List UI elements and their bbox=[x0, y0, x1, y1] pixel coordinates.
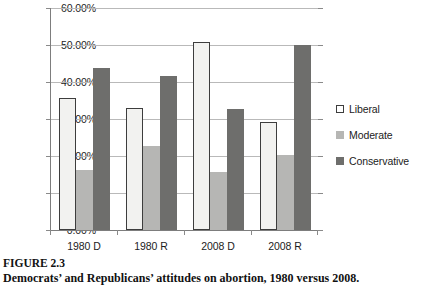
gridline bbox=[50, 8, 318, 9]
bar-moderate-1980-d bbox=[76, 170, 93, 230]
gridline bbox=[50, 45, 318, 46]
x-axis-tick bbox=[184, 230, 185, 235]
legend-label-liberal: Liberal bbox=[349, 103, 380, 115]
legend-item-conservative: Conservative bbox=[336, 148, 436, 174]
x-axis-tick bbox=[117, 230, 118, 235]
bar-liberal-2008-r bbox=[260, 122, 277, 230]
x-axis-label-group-1: 1980 D bbox=[49, 240, 119, 252]
bar-conservative-2008-r bbox=[294, 45, 311, 230]
plot-region: 1980 D 1980 R 2008 D 2008 R bbox=[50, 8, 318, 230]
y-axis-tick-right bbox=[318, 82, 323, 83]
y-axis-tick-right bbox=[318, 193, 323, 194]
bar-conservative-1980-d bbox=[93, 68, 110, 230]
figure-caption: FIGURE 2.3 Democrats’ and Republicans’ a… bbox=[3, 256, 433, 286]
bar-liberal-1980-r bbox=[126, 108, 143, 230]
y-axis-tick-right bbox=[318, 156, 323, 157]
x-axis-label-group-3: 2008 D bbox=[183, 240, 253, 252]
bar-moderate-2008-d bbox=[210, 172, 227, 230]
legend-label-moderate: Moderate bbox=[349, 129, 393, 141]
figure-caption-text: Democrats’ and Republicans’ attitudes on… bbox=[3, 271, 433, 286]
bar-conservative-2008-d bbox=[227, 109, 244, 230]
x-axis-label-group-2: 1980 R bbox=[116, 240, 186, 252]
chart-area: 60.00% 50.00% 40.00% 30.00% 20.00% 10.00… bbox=[0, 0, 437, 252]
y-axis-tick-right bbox=[318, 230, 323, 231]
legend-item-liberal: Liberal bbox=[336, 96, 436, 122]
legend-label-conservative: Conservative bbox=[349, 155, 409, 167]
legend-swatch-moderate-icon bbox=[336, 131, 344, 139]
bar-conservative-1980-r bbox=[160, 76, 177, 230]
figure-number: FIGURE 2.3 bbox=[3, 256, 433, 270]
legend-swatch-conservative-icon bbox=[336, 157, 344, 165]
x-axis-label-group-4: 2008 R bbox=[250, 240, 320, 252]
x-axis-tick bbox=[251, 230, 252, 235]
legend-item-moderate: Moderate bbox=[336, 122, 436, 148]
x-axis-tick bbox=[317, 230, 318, 235]
x-axis-tick bbox=[50, 230, 51, 235]
gridline bbox=[50, 119, 318, 120]
y-axis-tick-right bbox=[318, 119, 323, 120]
y-axis-tick-right bbox=[318, 45, 323, 46]
bar-moderate-1980-r bbox=[143, 146, 160, 230]
figure-container: 60.00% 50.00% 40.00% 30.00% 20.00% 10.00… bbox=[0, 0, 437, 293]
y-axis-line bbox=[50, 8, 51, 231]
bar-liberal-1980-d bbox=[59, 98, 76, 231]
gridline bbox=[50, 82, 318, 83]
y-axis-tick-right bbox=[318, 8, 323, 9]
chart-legend: Liberal Moderate Conservative bbox=[336, 96, 436, 174]
legend-swatch-liberal-icon bbox=[336, 105, 344, 113]
bar-moderate-2008-r bbox=[277, 155, 294, 230]
bar-liberal-2008-d bbox=[193, 42, 210, 230]
